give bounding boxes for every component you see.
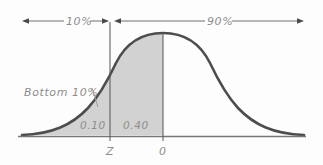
- label-bottom-10-percent-annotation: Bottom 10%: [24, 86, 98, 99]
- arrow-head-right-outer: [297, 18, 304, 24]
- figure-canvas: 10% 90% Bottom 10% 0.10 0.40 Z 0: [0, 0, 323, 165]
- normal-distribution-figure: 10% 90% Bottom 10% 0.10 0.40 Z 0: [0, 0, 323, 165]
- label-left-bracket-pct: 10%: [66, 15, 92, 28]
- bracket-right-90pct: 90%: [114, 15, 304, 28]
- label-z-to-mean-area: 0.40: [123, 119, 149, 131]
- arrow-head-left-outer: [22, 18, 29, 24]
- arrow-head-left-inner: [102, 18, 109, 24]
- arrow-head-right-inner: [114, 18, 121, 24]
- label-right-bracket-pct: 90%: [207, 15, 233, 28]
- label-left-tail-area: 0.10: [80, 119, 106, 131]
- axis-tick-label-z: Z: [105, 145, 114, 158]
- axis-tick-label-zero: 0: [159, 145, 167, 158]
- bracket-left-10pct: 10%: [22, 15, 109, 28]
